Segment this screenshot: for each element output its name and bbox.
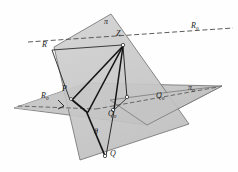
diagram-svg	[0, 0, 238, 172]
label-R-zero-sub: 0	[196, 26, 199, 31]
vertex-dot-P	[70, 98, 73, 101]
label-pi-zero-sub: 0	[192, 88, 195, 93]
label-point-Z: Z	[116, 30, 120, 38]
label-point-R: R	[42, 41, 47, 49]
label-Q-zero-base: Q	[108, 109, 114, 118]
vertex-dot-Q-zero-upper	[125, 95, 128, 98]
label-R-zero-left-sub: 0	[46, 96, 49, 101]
label-Q-zero-sub: 0	[114, 114, 117, 119]
label-angle-theta: θ	[94, 128, 98, 136]
label-plane-pi: π	[104, 18, 108, 26]
label-Q-zero-right-sub: 0	[162, 96, 165, 101]
vertex-dot-Z	[121, 43, 124, 46]
dashed-line-R-zero	[28, 28, 233, 42]
label-plane-pi-zero: π0	[188, 84, 195, 92]
label-point-Q-zero-right: Q0	[156, 92, 164, 100]
label-point-Q: Q	[110, 150, 116, 158]
geometry-diagram-canvas: π Z R R0 P R0 Q0 Q0 π0 θ Q	[0, 0, 238, 172]
label-Q-zero-right-base: Q	[156, 91, 162, 100]
label-point-R-zero-left: R0	[41, 92, 48, 100]
label-point-P: P	[62, 85, 67, 93]
vertex-dot-Q	[103, 154, 106, 157]
label-point-R-zero: R0	[191, 22, 198, 30]
label-point-Q-zero: Q0	[108, 110, 116, 118]
